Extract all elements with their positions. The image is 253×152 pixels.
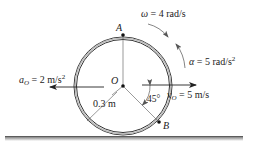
vO-value: = 5 m/s — [177, 89, 210, 100]
ground — [5, 136, 243, 141]
acceleration-label: aO = 2 m/s2 — [19, 73, 66, 87]
alpha-exponent: 2 — [232, 55, 236, 63]
alpha-label: α = 5 rad/s2 — [189, 55, 236, 67]
point-O-label: O — [111, 75, 118, 86]
aO-exponent: 2 — [62, 73, 66, 81]
point-O-dot — [121, 84, 125, 88]
velocity-label: vO = 5 m/s — [167, 89, 209, 102]
omega-label: ω = 4 rad/s — [141, 8, 186, 19]
omega-arrow-icon — [148, 24, 168, 37]
point-A-label: A — [115, 22, 123, 33]
radius-label: 0.3 m — [93, 98, 116, 109]
point-B-label: B — [163, 120, 169, 131]
omega-symbol: ω — [141, 8, 148, 19]
point-B-dot — [157, 120, 161, 124]
omega-value: = 4 rad/s — [148, 8, 186, 19]
radius-dimension-line-upper — [112, 86, 123, 95]
aO-value: = 2 m/s — [29, 74, 62, 85]
alpha-value: = 5 rad/s — [194, 56, 232, 67]
point-A-dot — [121, 33, 125, 37]
angle-label: 45° — [147, 94, 161, 104]
alpha-arrow-icon — [176, 44, 185, 68]
wheel-diagram: A O B ω = 4 rad/s α = 5 rad/s2 aO = 2 m/… — [0, 0, 253, 152]
